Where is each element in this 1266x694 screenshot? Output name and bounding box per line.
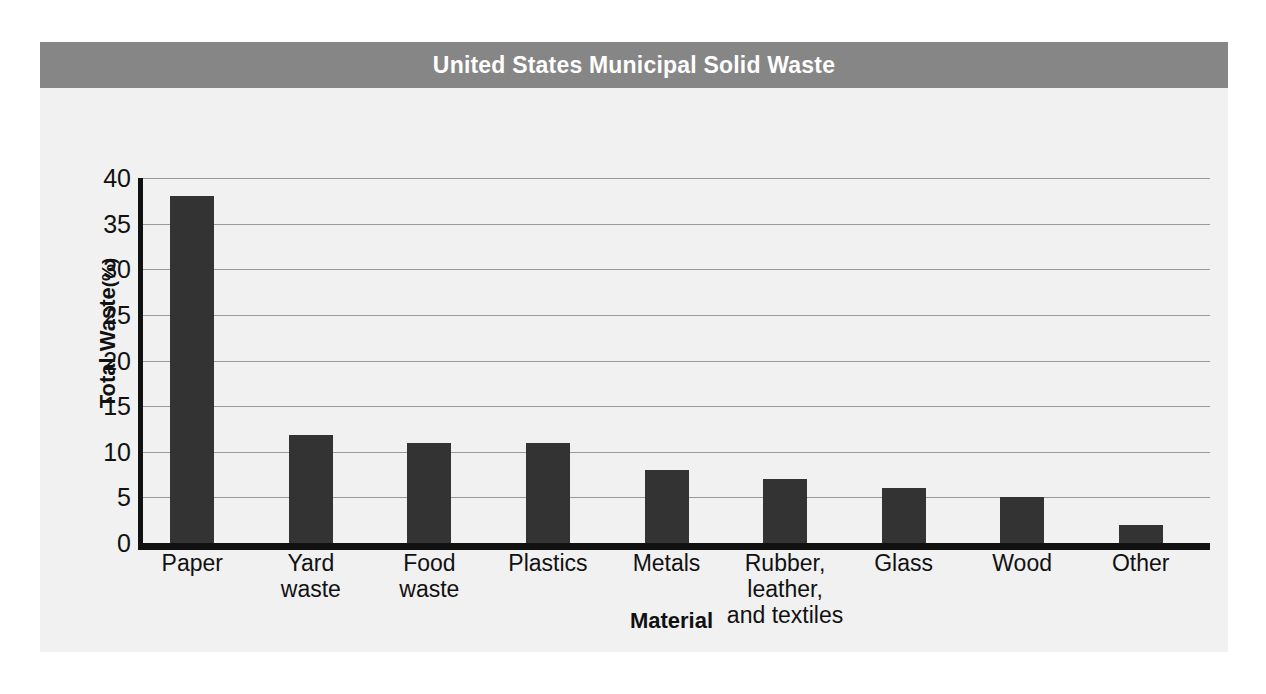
y-tick-label: 5 — [117, 483, 131, 512]
bar — [407, 443, 451, 543]
gridline — [143, 178, 1210, 179]
gridline — [143, 361, 1210, 362]
bar — [170, 196, 214, 543]
y-tick-label: 25 — [103, 300, 131, 329]
gridline — [143, 224, 1210, 225]
gridline — [143, 406, 1210, 407]
plot-area-wrapper: Total Waste(%) 0510152025303540 PaperYar… — [40, 88, 1228, 652]
bar — [645, 470, 689, 543]
y-tick-label: 35 — [103, 209, 131, 238]
bar — [526, 443, 570, 543]
bar — [1000, 497, 1044, 543]
gridline — [143, 269, 1210, 270]
x-tick-label: Wood — [992, 551, 1052, 577]
x-tick-label: Metals — [633, 551, 701, 577]
y-tick-label: 40 — [103, 164, 131, 193]
gridline — [143, 315, 1210, 316]
y-tick-label: 0 — [117, 529, 131, 558]
x-tick-label: Glass — [874, 551, 933, 577]
x-axis-title: Material — [138, 608, 1205, 634]
x-tick-label: Plastics — [508, 551, 587, 577]
bar — [882, 488, 926, 543]
x-tick-label: Other — [1112, 551, 1170, 577]
x-tick-label: Yard waste — [281, 551, 341, 603]
y-tick-label: 30 — [103, 255, 131, 284]
bar — [1119, 525, 1163, 543]
plot-box: 0510152025303540 PaperYard wasteFood was… — [138, 178, 1210, 550]
chart-title: United States Municipal Solid Waste — [433, 52, 835, 79]
bar — [763, 479, 807, 543]
bar — [289, 435, 333, 543]
x-tick-label: Paper — [162, 551, 223, 577]
chart-figure: United States Municipal Solid Waste Tota… — [40, 42, 1228, 652]
chart-title-banner: United States Municipal Solid Waste — [40, 42, 1228, 88]
y-tick-label: 15 — [103, 392, 131, 421]
y-tick-label: 20 — [103, 346, 131, 375]
x-tick-label: Food waste — [399, 551, 459, 603]
y-tick-label: 10 — [103, 437, 131, 466]
